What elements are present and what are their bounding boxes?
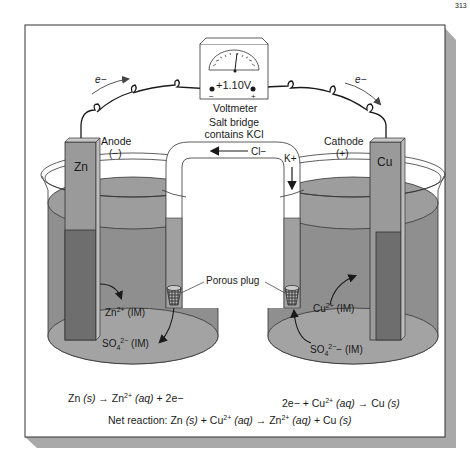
copper-label: Cu	[377, 155, 392, 169]
anode-sign: (−)	[109, 148, 122, 159]
electron-label-right: e−	[355, 74, 367, 85]
sulfate-label-right: SO42−− (IM)	[310, 343, 363, 357]
porous-plug-label: Porous plug	[206, 275, 259, 286]
copper-ion-label: Cu2+ (IM)	[313, 302, 354, 314]
zinc-label: Zn	[74, 160, 88, 174]
cathode-title: Cathode	[324, 135, 364, 147]
cathode-half-reaction: 2e− + Cu2+ (aq) → Cu (s)	[282, 397, 400, 409]
voltage-reading: +1.10V	[216, 79, 252, 91]
chloride-label: Cl−	[251, 146, 266, 157]
salt-bridge-label-2: contains KCl	[205, 128, 264, 140]
zinc-ion-label: Zn2+ (IM)	[105, 306, 145, 318]
copper-electrode: Cu	[370, 138, 405, 340]
electron-label-left: e−	[95, 74, 107, 85]
negative-terminal	[210, 87, 215, 92]
voltmeter: +1.10V − +	[200, 38, 268, 101]
positive-terminal	[251, 87, 256, 92]
voltmeter-label: Voltmeter	[213, 102, 258, 114]
salt-bridge-label-1: Salt bridge	[209, 116, 259, 128]
cathode-sign: (+)	[336, 148, 349, 159]
galvanic-cell-diagram: 313	[0, 0, 470, 458]
potassium-label: K+	[284, 153, 297, 164]
negative-sign: −	[209, 92, 214, 101]
anode-title: Anode	[101, 135, 132, 147]
page-number: 313	[455, 2, 467, 9]
zinc-electrode: Zn	[65, 138, 100, 340]
positive-sign: +	[251, 92, 256, 101]
